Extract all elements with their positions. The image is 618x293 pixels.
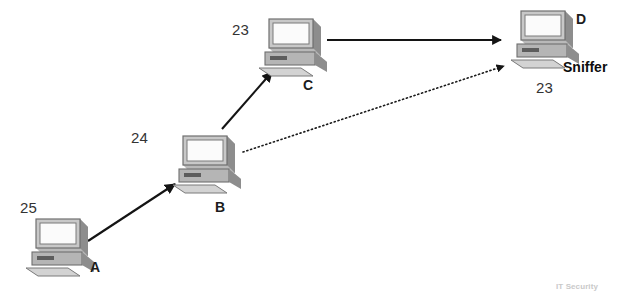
network-diagram-canvas: 25 A 24 B 23 C: [0, 0, 618, 293]
watermark-text: IT Security: [556, 282, 598, 291]
desktop-computer-icon: [257, 16, 333, 80]
node-a-name-label: A: [90, 260, 100, 274]
node-c-port-label: 23: [232, 22, 249, 37]
desktop-computer-icon: [24, 216, 100, 280]
edge-b-to-c: [222, 72, 272, 129]
node-d-name-label: D: [576, 12, 586, 26]
desktop-computer-icon: [171, 133, 247, 197]
node-b-port-label: 24: [131, 130, 148, 145]
node-c-name-label: C: [303, 78, 313, 92]
node-b-name-label: B: [215, 200, 225, 214]
node-d-port-label: 23: [536, 80, 553, 95]
node-d-role-label: Sniffer: [563, 60, 607, 74]
node-a-port-label: 25: [20, 200, 37, 215]
edge-a-to-b: [88, 184, 175, 241]
